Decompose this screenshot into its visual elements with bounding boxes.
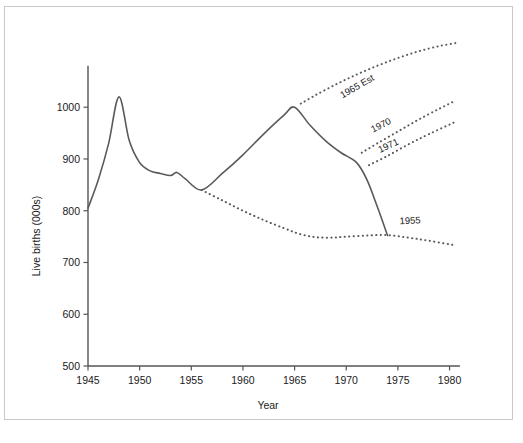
x-tick-label: 1975 bbox=[386, 374, 410, 386]
x-axis-title: Year bbox=[257, 399, 279, 411]
x-tick-label: 1960 bbox=[231, 374, 255, 386]
series-line-actual bbox=[88, 97, 388, 236]
x-tick-label: 1955 bbox=[180, 374, 204, 386]
x-tick-label: 1945 bbox=[76, 374, 100, 386]
x-tick-label: 1950 bbox=[128, 374, 152, 386]
x-tick-label: 1965 bbox=[283, 374, 307, 386]
x-tick-label: 1980 bbox=[438, 374, 462, 386]
y-tick-label: 600 bbox=[62, 308, 80, 320]
series-line-projection-1965-est bbox=[301, 43, 456, 104]
series-label-projection-1955: 1955 bbox=[399, 214, 421, 226]
series-label-projection-1971: 1971 bbox=[376, 136, 400, 155]
y-tick-label: 900 bbox=[62, 153, 80, 165]
series-label-projection-1965-est: 1965 Est bbox=[338, 72, 376, 100]
chart-tick-labels: 5006007008009001000194519501955196019651… bbox=[57, 101, 462, 386]
y-tick-label: 1000 bbox=[57, 101, 81, 113]
line-chart: 5006007008009001000194519501955196019651… bbox=[0, 0, 523, 443]
y-tick-label: 800 bbox=[62, 205, 80, 217]
series-label-projection-1970: 1970 bbox=[369, 115, 393, 134]
figure-page: 5006007008009001000194519501955196019651… bbox=[0, 0, 523, 443]
x-tick-label: 1970 bbox=[335, 374, 359, 386]
chart-series-labels: 1965 Est197019711955 bbox=[338, 72, 421, 226]
y-tick-label: 500 bbox=[62, 360, 80, 372]
y-tick-label: 700 bbox=[62, 256, 80, 268]
y-axis-title: Live births (000s) bbox=[30, 196, 42, 277]
